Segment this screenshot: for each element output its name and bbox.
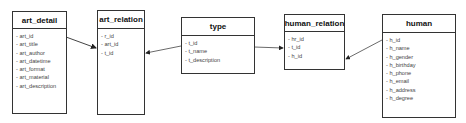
field-item: t_name — [185, 47, 254, 55]
arrow-type-to-human-relation — [254, 47, 283, 48]
field-list: art_id art_title art_author art_datetime… — [13, 29, 66, 90]
field-item: h_email — [386, 77, 455, 85]
field-item: hr_id — [288, 35, 344, 43]
field-item: h_phone — [386, 69, 455, 77]
arrow-art-detail-to-art-relation — [66, 37, 96, 48]
field-item: h_name — [386, 44, 455, 52]
field-list: hr_id t_id h_id — [285, 32, 344, 60]
entity-title: human_relation — [285, 15, 344, 32]
entity-type[interactable]: type t_id t_name t_description — [181, 17, 255, 74]
field-item: h_gender — [386, 53, 455, 61]
field-item: art_material — [16, 73, 66, 81]
field-item: r_id — [101, 32, 144, 40]
entity-human-relation[interactable]: human_relation hr_id t_id h_id — [284, 14, 345, 70]
field-item: h_address — [386, 86, 455, 94]
field-item: h_degree — [386, 94, 455, 102]
entity-art-detail[interactable]: art_detail art_id art_title art_author a… — [12, 11, 67, 114]
field-item: t_id — [101, 49, 144, 57]
field-item: h_birthday — [386, 61, 455, 69]
field-list: t_id t_name t_description — [182, 36, 254, 64]
field-item: art_id — [16, 32, 66, 40]
field-item: art_author — [16, 49, 66, 57]
field-list: r_id art_id t_id — [98, 29, 144, 57]
field-item: h_id — [288, 52, 344, 60]
field-item: art_datetime — [16, 57, 66, 65]
arrow-human-to-human-relation — [346, 40, 382, 59]
field-list: h_id h_name h_gender h_birthday h_phone … — [383, 33, 455, 102]
field-item: h_id — [386, 36, 455, 44]
arrow-type-to-art-relation — [146, 46, 181, 53]
field-item: t_id — [288, 43, 344, 51]
entity-title: art_relation — [98, 11, 144, 29]
field-item: art_format — [16, 65, 66, 73]
field-item: art_id — [101, 40, 144, 48]
field-item: art_description — [16, 82, 66, 90]
entity-title: art_detail — [13, 12, 66, 29]
field-item: art_title — [16, 40, 66, 48]
entity-title: type — [182, 18, 254, 36]
field-item: t_id — [185, 39, 254, 47]
entity-human[interactable]: human h_id h_name h_gender h_birthday h_… — [382, 14, 456, 118]
field-item: t_description — [185, 56, 254, 64]
entity-title: human — [383, 15, 455, 33]
entity-art-relation[interactable]: art_relation r_id art_id t_id — [97, 10, 145, 115]
